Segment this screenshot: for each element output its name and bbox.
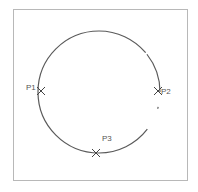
point-p3-label: P3: [102, 134, 112, 143]
point-p2-label: P2: [161, 87, 171, 96]
diagram-canvas: P1 P2 P3: [0, 0, 198, 192]
circle: [38, 31, 160, 153]
point-p1-label: P1: [26, 83, 36, 92]
